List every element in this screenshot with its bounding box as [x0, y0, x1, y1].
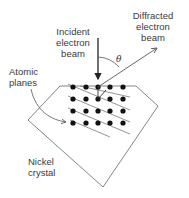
- incident-label-line2: electron: [56, 37, 90, 48]
- atomic-label-line1: Atomic: [9, 66, 38, 77]
- nickel-label-line1: Nickel: [28, 156, 55, 167]
- theta-label: θ: [116, 54, 121, 64]
- incident-label-line3: beam: [56, 48, 90, 59]
- diffracted-label-line2: electron: [128, 21, 178, 32]
- atomic-label-line2: planes: [9, 77, 38, 88]
- electron-diffraction-diagram: Incident electron beam Diffracted electr…: [0, 0, 189, 198]
- diffracted-beam-arrow: [98, 48, 157, 87]
- nickel-label-line2: crystal: [28, 167, 55, 178]
- incident-beam-label: Incident electron beam: [56, 26, 90, 59]
- diffracted-label-line1: Diffracted: [128, 10, 178, 21]
- atomic-planes-label: Atomic planes: [9, 66, 38, 88]
- nickel-crystal-label: Nickel crystal: [28, 156, 55, 178]
- incident-label-line1: Incident: [56, 26, 90, 37]
- atomic-planes-pointer: [31, 89, 66, 122]
- diffracted-label-line3: beam: [128, 32, 178, 43]
- diffracted-beam-label: Diffracted electron beam: [128, 10, 178, 43]
